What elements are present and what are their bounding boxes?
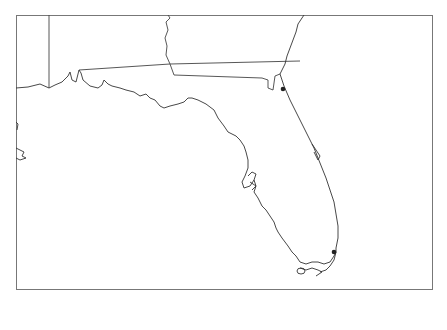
map-canvas[interactable]: [0, 0, 447, 330]
lake-okeechobee: [297, 268, 305, 274]
georgia-florida-border: [170, 64, 280, 90]
alabama-florida-border: [79, 61, 300, 70]
miami-area-dot[interactable]: [332, 250, 337, 255]
jacksonville-area-dot[interactable]: [281, 87, 286, 92]
gulf-coastline: [16, 70, 336, 264]
louisiana-coast: [16, 122, 26, 160]
atlantic-coastline: [280, 15, 338, 272]
alabama-georgia-border: [165, 15, 170, 64]
florida-keys: [300, 268, 322, 276]
